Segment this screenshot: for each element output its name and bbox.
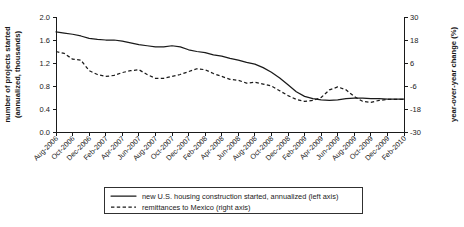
y-axis-title-line1: number of projects started bbox=[3, 26, 12, 123]
series-line-1 bbox=[56, 32, 404, 100]
y-axis-title-line2: (annualized, thousands) bbox=[13, 31, 22, 118]
line-chart: 0.00.40.81.21.62.0-30-18-661830Aug-2006O… bbox=[0, 0, 464, 227]
y-axis-tick-label: 1.2 bbox=[40, 59, 50, 68]
y2-axis-tick-label: 6 bbox=[410, 59, 414, 68]
y-axis-tick-label: 0.4 bbox=[40, 105, 50, 114]
y2-axis-tick-label: 18 bbox=[410, 36, 418, 45]
y-axis-tick-label: 0.8 bbox=[40, 82, 50, 91]
series-line-2 bbox=[56, 52, 404, 103]
y-axis-tick-label: 0.0 bbox=[40, 128, 50, 137]
legend-label-2: remittances to Mexico (right axis) bbox=[142, 203, 250, 212]
axis-frame bbox=[56, 17, 404, 132]
y2-axis-tick-label: -30 bbox=[410, 128, 421, 137]
legend-label-1: new U.S. housing construction started, a… bbox=[142, 192, 338, 201]
y2-axis-tick-label: 30 bbox=[410, 13, 418, 22]
chart-figure: 0.00.40.81.21.62.0-30-18-661830Aug-2006O… bbox=[0, 0, 464, 227]
y2-axis-tick-label: -18 bbox=[410, 105, 421, 114]
y-axis-tick-label: 2.0 bbox=[40, 13, 50, 22]
y2-axis-title: year-over-year change (%) bbox=[449, 27, 458, 122]
y-axis-tick-label: 1.6 bbox=[40, 36, 50, 45]
y2-axis-tick-label: -6 bbox=[410, 82, 417, 91]
